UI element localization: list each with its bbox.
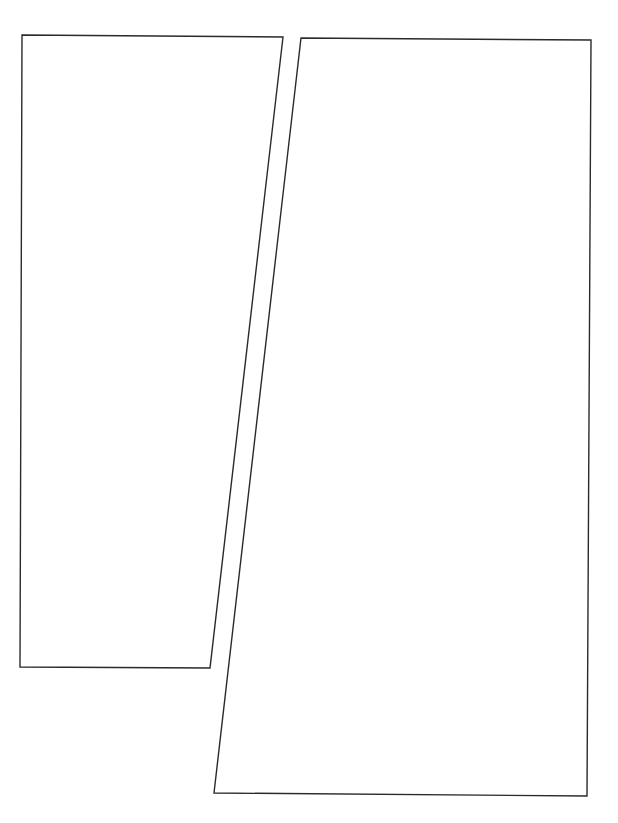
comic-page-layout (0, 0, 618, 823)
